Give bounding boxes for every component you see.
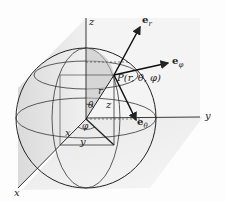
x-axis-label: x [14,188,20,198]
point-label: P(r, θ, φ) [117,73,161,83]
y-axis-label: y [205,111,211,121]
spherical-coordinates-figure: z y x P(r, θ, φ) r z x y θ φ er eφ eθ [0,0,226,201]
diagram-drawing [0,0,226,201]
z-axis-label: z [89,17,94,27]
z-label: z [106,100,111,110]
y-segment-label: y [80,137,86,147]
e-phi-label: eφ [172,56,183,69]
e-r-label: er [142,15,152,28]
x-segment-label: x [65,128,71,138]
theta-label: θ [88,101,93,110]
r-label: r [98,86,103,96]
e-theta-label: eθ [137,117,148,130]
phi-label: φ [82,122,88,131]
